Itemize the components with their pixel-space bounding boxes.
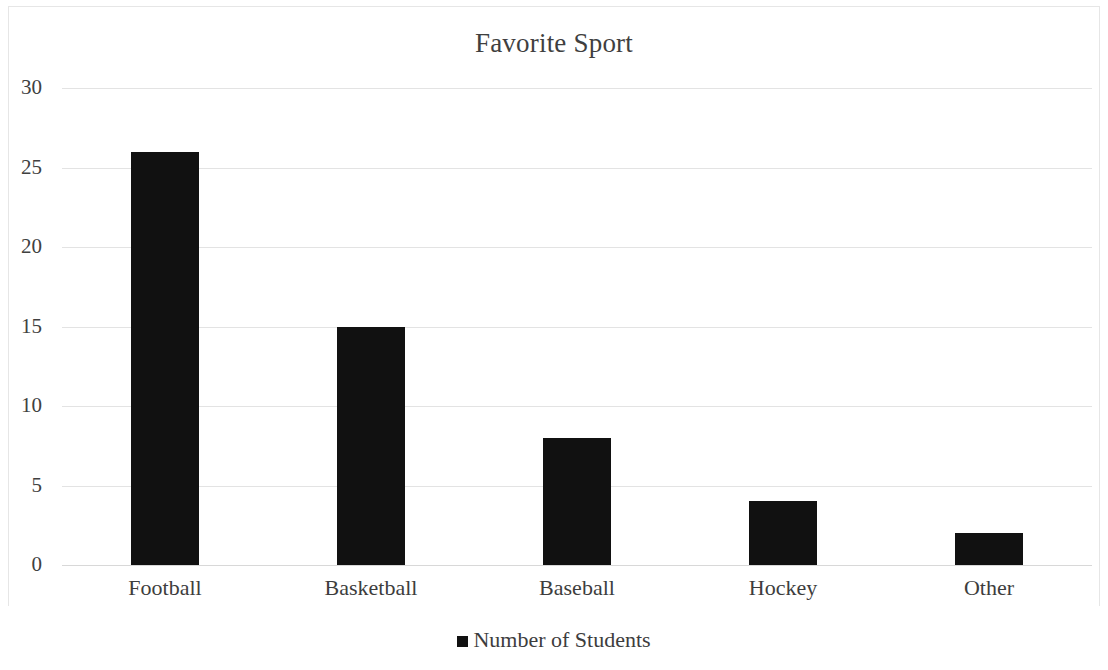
chart-legend: Number of Students — [0, 626, 1108, 654]
chart-title: Favorite Sport — [0, 26, 1108, 60]
bar-baseball[interactable] — [543, 438, 611, 565]
favorite-sport-bar-chart: Favorite Sport 051015202530 FootballBask… — [0, 0, 1108, 670]
bar-other[interactable] — [955, 533, 1023, 565]
y-tick-label-15: 15 — [0, 316, 42, 337]
bar-football[interactable] — [131, 152, 199, 565]
x-label-other: Other — [964, 573, 1014, 603]
bar-hockey[interactable] — [749, 501, 817, 565]
x-axis-category-labels: FootballBasketballBaseballHockeyOther — [62, 573, 1092, 613]
legend-swatch-icon — [457, 636, 468, 647]
y-tick-label-0: 0 — [0, 554, 42, 575]
bars-group — [62, 88, 1092, 565]
legend-entry-label: Number of Students — [473, 626, 650, 654]
x-label-hockey: Hockey — [749, 573, 817, 603]
bar-basketball[interactable] — [337, 327, 405, 566]
bar-slot — [268, 88, 474, 565]
x-label-football: Football — [128, 573, 201, 603]
y-tick-label-25: 25 — [0, 157, 42, 178]
bar-slot — [474, 88, 680, 565]
plot-area: 051015202530 — [62, 88, 1092, 565]
y-tick-label-10: 10 — [0, 395, 42, 416]
bar-slot — [62, 88, 268, 565]
x-label-baseball: Baseball — [539, 573, 615, 603]
x-label-basketball: Basketball — [325, 573, 418, 603]
y-tick-label-5: 5 — [0, 475, 42, 496]
bar-slot — [680, 88, 886, 565]
gridline-0 — [62, 565, 1092, 566]
y-tick-label-20: 20 — [0, 236, 42, 257]
y-tick-label-30: 30 — [0, 77, 42, 98]
bar-slot — [886, 88, 1092, 565]
